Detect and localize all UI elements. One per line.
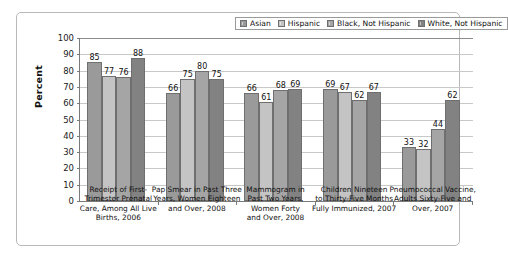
category-label-line: Care, Among All Live xyxy=(73,204,164,213)
bar-group: 85777688 xyxy=(80,38,159,201)
y-tick-label: 40 xyxy=(63,131,74,141)
bar-group: 69676267 xyxy=(316,38,395,201)
category-label-line: Mammogram in xyxy=(230,185,321,194)
bar[interactable]: 75 xyxy=(209,79,224,201)
chart-legend: AsianHispanicBlack, Not HispanicWhite, N… xyxy=(235,17,508,30)
category-label-line: Trimester Prenatal xyxy=(73,194,164,203)
category-label-line: Adults Sixty-Five and xyxy=(387,194,478,203)
bar-value-label: 44 xyxy=(433,120,443,129)
y-tick-label: 100 xyxy=(58,33,74,43)
legend-swatch-icon xyxy=(240,20,247,27)
bar[interactable]: 76 xyxy=(116,77,131,201)
bar-value-label: 33 xyxy=(404,138,414,147)
legend-label: Black, Not Hispanic xyxy=(337,19,410,28)
y-tick-label: 80 xyxy=(63,66,74,76)
y-axis-title: Percent xyxy=(33,65,44,108)
category-label-line: Fully Immunized, 2007 xyxy=(309,204,400,213)
legend-item[interactable]: White, Not Hispanic xyxy=(418,19,503,28)
plot-area: 1009080706050403020100 85777688667580756… xyxy=(79,38,473,202)
bar-value-label: 69 xyxy=(290,80,300,89)
category-label-line: Children Nineteen xyxy=(309,185,400,194)
bar-value-label: 66 xyxy=(168,84,178,93)
chart-frame: Percent 1009080706050403020100 857776886… xyxy=(16,12,460,246)
bar-value-label: 66 xyxy=(247,84,257,93)
bar-group: 66616869 xyxy=(237,38,316,201)
bar-value-label: 32 xyxy=(418,140,428,149)
y-tick-label: 90 xyxy=(63,49,74,59)
y-tick-label: 30 xyxy=(63,147,74,157)
bar-value-label: 88 xyxy=(133,49,143,58)
bar[interactable]: 77 xyxy=(102,76,117,202)
legend-item[interactable]: Hispanic xyxy=(278,19,320,28)
category-label-line: Years, Women Eighteen xyxy=(152,194,243,203)
bar-value-label: 76 xyxy=(118,68,128,77)
x-axis-category-label: Pneumococcal Vaccine,Adults Sixty-Five a… xyxy=(387,185,478,213)
y-tick-label: 20 xyxy=(63,163,74,173)
bar-value-label: 75 xyxy=(212,70,222,79)
category-label-line: Pneumococcal Vaccine, xyxy=(387,185,478,194)
category-label-line: Births, 2006 xyxy=(73,213,164,222)
category-label-line: and Over, 2008 xyxy=(230,213,321,222)
legend-label: Asian xyxy=(250,19,271,28)
category-label-line: Women Forty xyxy=(230,204,321,213)
bar-group: 33324462 xyxy=(394,38,473,201)
legend-item[interactable]: Black, Not Hispanic xyxy=(327,19,410,28)
bar[interactable]: 75 xyxy=(180,79,195,201)
legend-label: Hispanic xyxy=(288,19,320,28)
bar-value-label: 62 xyxy=(354,91,364,100)
y-tick-label: 70 xyxy=(63,82,74,92)
y-tick-label: 60 xyxy=(63,98,74,108)
category-label-line: to Thirty-Five Months xyxy=(309,194,400,203)
bar[interactable]: 80 xyxy=(195,71,210,201)
category-label-line: Past Two Years, xyxy=(230,194,321,203)
bar-value-label: 75 xyxy=(183,70,193,79)
bar[interactable]: 85 xyxy=(87,62,102,201)
bar-value-label: 67 xyxy=(340,83,350,92)
bar-value-label: 67 xyxy=(369,83,379,92)
legend-swatch-icon xyxy=(278,20,285,27)
legend-label: White, Not Hispanic xyxy=(428,19,503,28)
x-axis-category-label: Receipt of First-Trimester PrenatalCare,… xyxy=(73,185,164,223)
bar-value-label: 80 xyxy=(197,62,207,71)
y-tick-label: 50 xyxy=(63,115,74,125)
category-label-line: Receipt of First- xyxy=(73,185,164,194)
bar-value-label: 62 xyxy=(447,91,457,100)
bar[interactable]: 88 xyxy=(131,58,146,201)
legend-swatch-icon xyxy=(418,20,425,27)
bar-value-label: 61 xyxy=(261,93,271,102)
bar-group: 66758075 xyxy=(159,38,238,201)
category-label-line: Pap Smear in Past Three xyxy=(152,185,243,194)
bar-value-label: 77 xyxy=(104,67,114,76)
legend-item[interactable]: Asian xyxy=(240,19,271,28)
legend-swatch-icon xyxy=(327,20,334,27)
category-label-line: Over, 2007 xyxy=(387,204,478,213)
category-label-line: and Over, 2008 xyxy=(152,204,243,213)
x-axis-category-label: Children Nineteento Thirty-Five MonthsFu… xyxy=(309,185,400,213)
bar-value-label: 85 xyxy=(89,53,99,62)
x-axis-category-label: Pap Smear in Past ThreeYears, Women Eigh… xyxy=(152,185,243,213)
bar-value-label: 68 xyxy=(276,81,286,90)
x-axis-category-label: Mammogram inPast Two Years,Women Fortyan… xyxy=(230,185,321,223)
bar-value-label: 69 xyxy=(325,80,335,89)
